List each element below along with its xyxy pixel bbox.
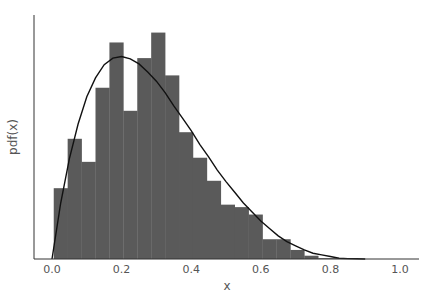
histogram-bar: [137, 58, 151, 259]
histogram-bar: [151, 33, 165, 259]
x-tick-label: 0.6: [252, 263, 270, 276]
histogram-bar: [290, 250, 304, 259]
x-axis-label: x: [223, 279, 230, 293]
histogram-bar: [221, 205, 235, 259]
histogram-bar: [96, 88, 110, 259]
x-tick-label: 0.4: [182, 263, 200, 276]
histogram-bar: [235, 207, 249, 259]
x-tick-label: 0.2: [113, 263, 131, 276]
histogram-bar: [82, 162, 96, 259]
histogram-bar: [123, 111, 137, 259]
x-tick-label: 0.8: [322, 263, 340, 276]
histogram-bar: [263, 239, 277, 259]
histogram-bar: [179, 132, 193, 259]
y-axis-label: pdf(x): [6, 119, 20, 155]
histogram-chart: 0.00.20.40.60.81.0 x pdf(x): [0, 0, 438, 301]
x-tick-label: 0.0: [43, 263, 61, 276]
histogram-bar: [193, 158, 207, 259]
x-tick-label: 1.0: [391, 263, 409, 276]
histogram-bar: [207, 181, 221, 259]
histogram-bar: [109, 42, 123, 259]
x-tick-labels: 0.00.20.40.60.81.0: [43, 263, 409, 276]
